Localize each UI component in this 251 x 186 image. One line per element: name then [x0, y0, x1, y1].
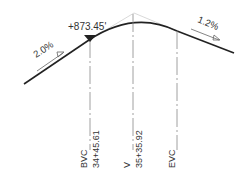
v-label-group: V: [122, 162, 132, 168]
v-station-group: 35+35.92: [134, 130, 144, 168]
vertical-curve-diagram: +873.45' 2.0% 1.2% BVC 34+45.61 V 35+35.…: [0, 0, 251, 186]
grade-out-group: 1.2%: [196, 14, 221, 33]
elevation-label: +873.45': [68, 21, 106, 32]
bvc-station: 34+45.61: [91, 130, 101, 168]
evc-label-group: EVC: [167, 149, 177, 168]
grade-in-arrow-icon: [57, 52, 64, 57]
evc-name: EVC: [167, 149, 177, 168]
incoming-grade-line: [24, 40, 89, 84]
elevation-marker-icon: [84, 35, 96, 42]
grade-in-label: 2.0%: [31, 38, 56, 59]
v-station: 35+35.92: [134, 130, 144, 168]
grade-out-label: 1.2%: [196, 14, 221, 33]
bvc-label-group: BVC: [79, 149, 89, 168]
v-name: V: [122, 162, 132, 168]
grade-in-group: 2.0%: [31, 38, 56, 59]
bvc-station-group: 34+45.61: [91, 130, 101, 168]
bvc-name: BVC: [79, 149, 89, 168]
